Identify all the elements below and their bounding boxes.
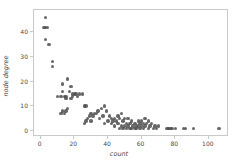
- x-axis-tick: [40, 136, 41, 139]
- scatter-point: [155, 127, 158, 130]
- x-axis-tick: [174, 136, 175, 139]
- scatter-point: [95, 112, 98, 115]
- scatter-point: [142, 127, 145, 130]
- scatter-point: [76, 95, 79, 98]
- y-axis-tick: [30, 56, 33, 57]
- scatter-point: [66, 77, 69, 80]
- x-axis-tick-label: 40: [103, 140, 111, 147]
- scatter-point: [120, 112, 123, 115]
- x-axis-tick: [141, 136, 142, 139]
- scatter-point: [103, 104, 106, 107]
- scatter-point: [103, 122, 106, 125]
- scatter-point: [101, 114, 104, 117]
- scatter-point: [83, 122, 86, 125]
- scatter-point: [69, 97, 72, 100]
- x-axis-tick-label: 60: [137, 140, 145, 147]
- scatter-point: [51, 60, 54, 63]
- scatter-point: [84, 104, 87, 107]
- x-axis-tick: [208, 136, 209, 139]
- scatter-point: [113, 124, 116, 127]
- y-axis-tick: [30, 130, 33, 131]
- plot-area: [33, 9, 228, 136]
- scatter-point: [64, 97, 67, 100]
- scatter-point: [46, 26, 49, 29]
- scatter-point: [69, 85, 72, 88]
- x-axis-tick-label: 20: [70, 140, 78, 147]
- y-axis-tick: [30, 31, 33, 32]
- x-axis-label: count: [0, 150, 238, 158]
- scatter-point: [63, 112, 66, 115]
- scatter-point: [100, 107, 103, 110]
- x-axis-tick: [73, 136, 74, 139]
- x-axis-tick: [107, 136, 108, 139]
- scatter-point: [174, 127, 177, 130]
- scatter-point: [47, 43, 50, 46]
- scatter-point: [51, 65, 54, 68]
- scatter-point: [44, 38, 47, 41]
- x-axis-tick-label: 100: [202, 140, 213, 147]
- scatter-point: [147, 127, 150, 130]
- y-axis-label: node degree: [2, 44, 10, 108]
- y-axis-tick: [30, 81, 33, 82]
- y-axis-tick-label: 0: [0, 126, 28, 133]
- scatter-point: [105, 109, 108, 112]
- y-axis-tick: [30, 105, 33, 106]
- scatter-point: [91, 114, 94, 117]
- scatter-point: [98, 117, 101, 120]
- scatter-point: [44, 16, 47, 19]
- scatter-point: [61, 90, 64, 93]
- scatter-point: [192, 127, 195, 130]
- x-axis-tick-label: 80: [170, 140, 178, 147]
- scatter-point: [61, 82, 64, 85]
- scatter-point: [184, 127, 187, 130]
- y-axis-tick-label: 40: [0, 28, 28, 35]
- scatter-point: [81, 92, 84, 95]
- x-axis-tick-label: 0: [38, 140, 42, 147]
- scatter-chart-figure: 020406080100010203040 count node degree: [0, 0, 238, 164]
- scatter-point: [217, 127, 220, 130]
- scatter-point: [89, 119, 92, 122]
